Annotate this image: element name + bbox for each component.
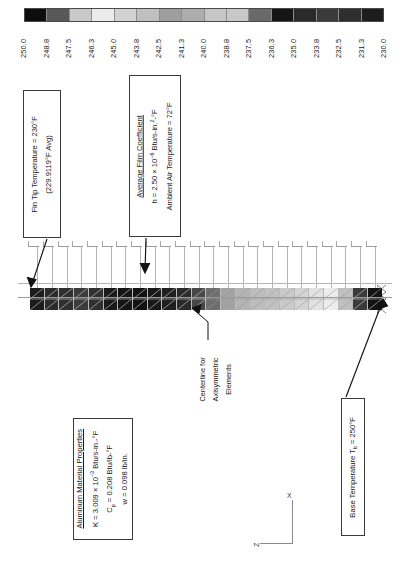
legend-swatch [249, 9, 271, 21]
mesh-element-edges [74, 288, 88, 310]
legend-tick: 230.0 [379, 24, 406, 58]
convection-arrow-head [28, 246, 39, 247]
mesh-element [309, 288, 324, 310]
convection-arrow-barb [28, 241, 29, 246]
convection-arrow-head [116, 246, 127, 247]
mesh-element-edges [89, 288, 103, 310]
legend-swatch [362, 9, 383, 21]
legend-tick-label: 232.5 [334, 24, 343, 58]
convection-arrow-head [307, 246, 318, 247]
fin-element-mesh [30, 288, 382, 310]
convection-arrow-head [58, 246, 69, 247]
temperature-legend-bar [24, 8, 384, 22]
mesh-element [45, 288, 60, 310]
convection-arrow-head [278, 246, 289, 247]
mesh-element [162, 288, 177, 310]
legend-swatch [294, 9, 316, 21]
convection-arrow-head [175, 246, 186, 247]
mesh-element [148, 288, 163, 310]
convection-arrow-barb [72, 241, 73, 246]
convection-arrow-head [336, 246, 347, 247]
film-coefficient-callout-text: Average Film Coefficient h = 2.50 × 10−6… [130, 76, 180, 236]
fin-tip-temperature-callout: Fin Tip Temperature = 230°F (229.9119°F … [23, 90, 61, 238]
mesh-element [104, 288, 119, 310]
legend-swatch [160, 9, 182, 21]
legend-swatch [25, 9, 47, 21]
convection-arrow-barb [160, 241, 161, 246]
material-heading: Aluminum Material Properties [73, 429, 87, 529]
legend-tick-label: 230.0 [379, 24, 388, 58]
convection-arrow-head [292, 246, 303, 247]
legend-tick-label: 236.3 [267, 24, 276, 58]
convection-load-arrows [30, 225, 382, 289]
mesh-element-edges [339, 288, 353, 310]
convection-arrow-head [131, 246, 142, 247]
triad-z-label: Z [253, 543, 260, 547]
temperature-legend-ticks: 250.0248.8247.5246.3245.0243.8242.5241.3… [24, 24, 384, 58]
mesh-element [251, 288, 266, 310]
convection-arrow-head [248, 246, 259, 247]
convection-arrow-barb [190, 241, 191, 246]
mesh-element-edges [324, 288, 338, 310]
mesh-element-edges [353, 288, 367, 310]
legend-swatch [205, 9, 227, 21]
convection-arrow-barb [322, 241, 323, 246]
legend-swatch [115, 9, 137, 21]
legend-tick-label: 245.0 [109, 24, 118, 58]
mesh-element-edges [177, 288, 191, 310]
mesh-element-edges [265, 288, 279, 310]
material-properties-text: Aluminum Material Properties K = 3.009 ×… [74, 419, 132, 539]
legend-swatch [272, 9, 294, 21]
convection-arrow-head [190, 246, 201, 247]
film-coefficient-callout: Average Film Coefficient h = 2.50 × 10−6… [129, 75, 181, 237]
convection-arrow-barb [204, 241, 205, 246]
convection-arrow-barb [102, 241, 103, 246]
fin-tip-line-2: (229.9119°F Avg) [42, 116, 56, 212]
convection-arrow-head [87, 246, 98, 247]
legend-swatch [227, 9, 249, 21]
mesh-element-edges [162, 288, 176, 310]
centerline-label: Centerline for Axisymmetric Elements [196, 340, 236, 418]
convection-arrow-head [72, 246, 83, 247]
film-coefficient-value: h = 2.50 × 10−6 Btu/s-in.2-°F [147, 102, 163, 210]
mesh-element-edges [104, 288, 118, 310]
fin-upper-edge-line [18, 283, 392, 284]
aluminum-material-properties-callout: Aluminum Material Properties K = 3.009 ×… [73, 418, 133, 540]
mesh-element [192, 288, 207, 310]
mesh-element-edges [192, 288, 206, 310]
mesh-element-edges [295, 288, 309, 310]
legend-tick-label: 248.8 [42, 24, 51, 58]
convection-arrow-barb [336, 241, 337, 246]
convection-arrow-barb [263, 241, 264, 246]
convection-arrow-head [234, 246, 245, 247]
triad-x-axis [292, 500, 293, 544]
triad-x-label: X [287, 492, 292, 499]
convection-arrow-barb [219, 241, 220, 246]
fin-model [0, 225, 406, 325]
mesh-element [353, 288, 368, 310]
legend-tick-label: 240.0 [199, 24, 208, 58]
material-specific-heat: Cp = 0.208 Btu/lb-°F [104, 429, 119, 529]
legend-tick-label: 246.3 [87, 24, 96, 58]
convection-arrow-barb [248, 241, 249, 246]
convection-arrow-barb [175, 241, 176, 246]
triad-z-axis [260, 543, 293, 544]
fin-tip-callout-text: Fin Tip Temperature = 230°F (229.9119°F … [24, 91, 60, 237]
convection-arrow-barb [366, 241, 367, 246]
fin-tip-line-1: Fin Tip Temperature = 230°F [28, 116, 42, 212]
convection-arrow-barb [116, 241, 117, 246]
convection-arrow-head [43, 246, 54, 247]
convection-arrow-barb [292, 241, 293, 246]
mesh-element [133, 288, 148, 310]
legend-tick-label: 233.8 [312, 24, 321, 58]
legend-tick-label: 250.0 [19, 24, 28, 58]
convection-arrow-head [351, 246, 362, 247]
mesh-element [118, 288, 133, 310]
material-conductivity: K = 3.009 × 10−3 Btu/s-in.-°F [88, 429, 104, 529]
convection-arrow-barb [278, 241, 279, 246]
mesh-element-edges [59, 288, 73, 310]
convection-arrow-barb [131, 241, 132, 246]
film-coefficient-heading: Average Film Coefficient [133, 102, 147, 210]
legend-tick-label: 235.0 [289, 24, 298, 58]
convection-arrow-barb [87, 241, 88, 246]
